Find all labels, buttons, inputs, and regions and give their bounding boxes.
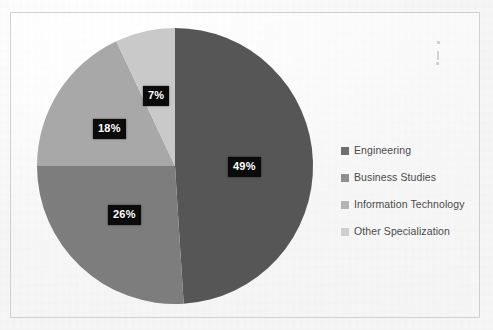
legend-item-engineering[interactable]: Engineering <box>341 137 486 164</box>
legend-swatch-business-studies <box>341 174 349 182</box>
legend-item-information-technology[interactable]: Information Technology <box>341 191 486 218</box>
legend-swatch-information-technology <box>341 201 349 209</box>
legend-label-information-technology: Information Technology <box>354 199 465 210</box>
legend-item-other-specialization[interactable]: Other Specialization <box>341 218 486 245</box>
pie-chart: 49% 26% 18% 7% Engineering Business Stud… <box>0 0 493 330</box>
legend-label-other-specialization: Other Specialization <box>354 226 450 237</box>
legend-swatch-other-specialization <box>341 228 349 236</box>
legend-item-business-studies[interactable]: Business Studies <box>341 164 486 191</box>
data-label-engineering: 49% <box>228 157 261 177</box>
pie-slice-group <box>37 28 313 304</box>
chart-legend: Engineering Business Studies Information… <box>341 137 486 245</box>
legend-label-engineering: Engineering <box>354 145 411 156</box>
data-label-business-studies: 26% <box>108 205 141 225</box>
legend-label-business-studies: Business Studies <box>354 172 436 183</box>
data-label-information-technology: 18% <box>93 119 126 139</box>
pie-slice-business-studies[interactable] <box>37 166 184 304</box>
legend-swatch-engineering <box>341 147 349 155</box>
data-label-other-specialization: 7% <box>143 86 169 106</box>
